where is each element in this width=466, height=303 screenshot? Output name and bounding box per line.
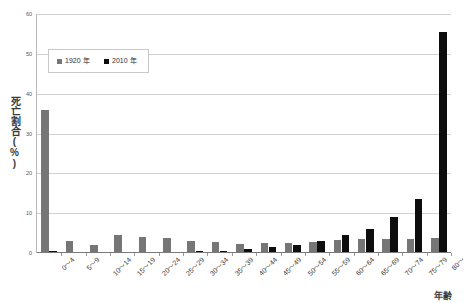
x-axis-tick-label: 0〜4 [61,256,77,272]
y-axis-tick-label: 40 [16,91,32,97]
legend-entry-1920: 1920 年 [57,57,90,65]
bar-1920 [114,235,122,253]
x-axis-tick-label: 55〜59 [331,256,353,278]
x-axis-tick-label: 20〜24 [160,256,182,278]
bar-2010 [366,229,374,253]
y-axis-tick-label: 30 [16,131,32,137]
x-axis-tick-label: 5〜9 [85,256,101,272]
x-axis-tick-label: 50〜54 [306,256,328,278]
bar-2010 [439,32,447,253]
x-axis-tick-label: 15〜19 [136,256,158,278]
y-axis-tick-label: 10 [16,210,32,216]
x-axis-line [37,252,451,253]
x-axis-tick-labels: 0〜45〜910〜1415〜1920〜2425〜2930〜3435〜3940〜4… [36,256,450,303]
x-axis-tick-label: 10〜14 [111,256,133,278]
x-axis-title: 年齢 [434,291,452,301]
legend-swatch-2010-icon [104,59,109,64]
x-axis-tick-label: 75〜79 [428,256,450,278]
x-axis-tick-label: 80〜 [450,256,466,272]
x-axis-tick-label: 25〜29 [185,256,207,278]
bar-1920 [41,110,49,253]
bar-2010 [342,235,350,253]
legend-label-2010: 2010 年 [112,57,137,65]
y-axis-tick-label: 60 [16,11,32,17]
legend-swatch-1920-icon [57,59,62,64]
x-axis-tick-label: 45〜49 [282,256,304,278]
bar-2010 [390,217,398,253]
bar-1920 [163,238,171,253]
x-axis-tick [451,253,452,256]
bar-1920 [407,239,415,253]
x-axis-tick-label: 35〜39 [233,256,255,278]
x-axis-tick-label: 65〜69 [379,256,401,278]
x-axis-tick-label: 30〜34 [209,256,231,278]
y-axis-tick-label: 50 [16,51,32,57]
y-axis-tick-label: 20 [16,170,32,176]
y-axis-tick-label: 0 [16,250,32,256]
legend-entry-2010: 2010 年 [104,57,137,65]
bar-1920 [358,239,366,253]
bar-1920 [139,237,147,253]
legend-label-1920: 1920 年 [65,57,90,65]
x-axis-tick-label: 60〜64 [355,256,377,278]
bar-2010 [415,199,423,253]
bar-1920 [382,239,390,253]
x-axis-tick-label: 70〜74 [404,256,426,278]
x-axis-tick-label: 40〜44 [258,256,280,278]
bar-1920 [431,238,439,253]
chart-legend: 1920 年 2010 年 [48,49,149,73]
